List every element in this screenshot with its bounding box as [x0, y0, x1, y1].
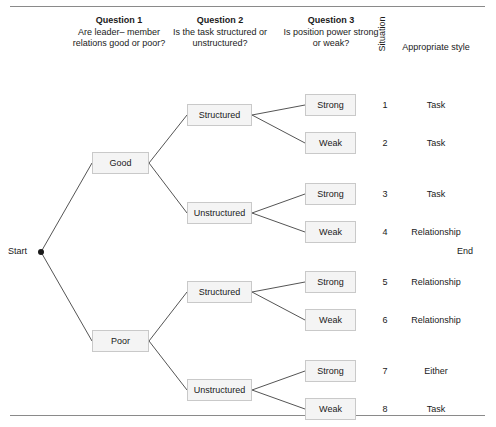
style-label-8: Task — [396, 404, 476, 414]
node-good[interactable]: Good — [92, 152, 149, 174]
question-1-subtitle: Are leader– member relations good or poo… — [60, 27, 178, 50]
bottom-rule — [10, 415, 485, 416]
start-label: Start — [8, 246, 27, 256]
node-power-6[interactable]: Weak — [305, 309, 356, 331]
question-2-title: Question 2 — [168, 15, 272, 27]
node-power-7[interactable]: Strong — [305, 360, 356, 382]
column-header-question-3: Question 3 Is position power strong or w… — [283, 15, 379, 50]
style-label-7: Either — [396, 366, 476, 376]
node-power-8[interactable]: Weak — [305, 398, 356, 420]
column-header-question-2: Question 2 Is the task structured or uns… — [168, 15, 272, 50]
question-3-title: Question 3 — [283, 15, 379, 27]
decision-tree-figure: Question 1 Are leader– member relations … — [0, 0, 496, 427]
node-power-3[interactable]: Strong — [305, 183, 356, 205]
node-poor[interactable]: Poor — [92, 330, 149, 352]
node-unstructured-1[interactable]: Unstructured — [187, 202, 252, 224]
question-1-title: Question 1 — [60, 15, 178, 27]
style-label-1: Task — [396, 100, 476, 110]
question-3-subtitle: Is position power strong or weak? — [283, 27, 379, 50]
style-label-6: Relationship — [396, 315, 476, 325]
style-label-4: Relationship — [396, 227, 476, 237]
style-label-3: Task — [396, 189, 476, 199]
node-structured-2[interactable]: Structured — [187, 281, 252, 303]
node-power-1[interactable]: Strong — [305, 94, 356, 116]
style-label-2: Task — [396, 138, 476, 148]
style-label-5: Relationship — [396, 277, 476, 287]
end-label: End — [457, 246, 473, 256]
column-header-question-1: Question 1 Are leader– member relations … — [60, 15, 178, 50]
node-power-4[interactable]: Weak — [305, 221, 356, 243]
node-unstructured-2[interactable]: Unstructured — [187, 379, 252, 401]
start-node-dot — [38, 249, 44, 255]
top-rule — [10, 6, 485, 7]
node-power-2[interactable]: Weak — [305, 132, 356, 154]
column-header-situation: Situation — [377, 1, 393, 67]
node-structured-1[interactable]: Structured — [187, 104, 252, 126]
question-2-subtitle: Is the task structured or unstructured? — [168, 27, 272, 50]
node-power-5[interactable]: Strong — [305, 271, 356, 293]
column-header-appropriate-style: Appropriate style — [396, 42, 476, 54]
